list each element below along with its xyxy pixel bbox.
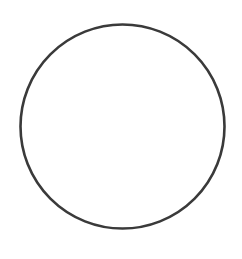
background	[0, 0, 242, 259]
diagram-canvas	[0, 0, 242, 259]
